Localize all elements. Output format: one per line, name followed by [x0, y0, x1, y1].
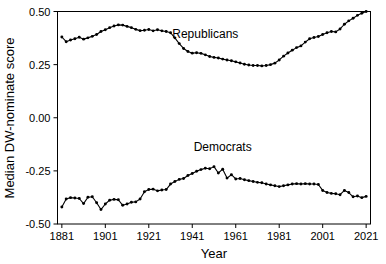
data-point: [160, 29, 163, 32]
data-point: [273, 184, 276, 187]
data-point: [269, 183, 272, 186]
data-point: [204, 167, 207, 170]
y-tick-label: -0.25: [25, 165, 50, 177]
y-tick-label: 0.00: [29, 112, 50, 124]
data-point: [178, 42, 181, 45]
data-point: [256, 64, 259, 67]
y-axis-title: Median DW-nominate score: [2, 38, 17, 199]
data-point: [334, 30, 337, 33]
data-point: [104, 203, 107, 206]
data-point: [239, 177, 242, 180]
data-point: [330, 192, 333, 195]
data-point: [169, 183, 172, 186]
data-point: [343, 189, 346, 192]
x-tick-label: 1901: [93, 230, 117, 242]
data-point: [147, 28, 150, 31]
data-point: [299, 183, 302, 186]
data-point: [208, 55, 211, 58]
data-point: [156, 189, 159, 192]
data-point: [117, 198, 120, 201]
data-point: [195, 170, 198, 173]
data-point: [217, 172, 220, 175]
dw-nominate-chart: 0.500.250.00-0.25-0.50 18811901192119411…: [0, 0, 386, 264]
data-point: [282, 55, 285, 58]
data-point: [200, 168, 203, 171]
x-axis-title: Year: [201, 246, 228, 261]
data-point: [152, 188, 155, 191]
data-point: [165, 188, 168, 191]
data-point: [78, 36, 81, 39]
data-point: [334, 192, 337, 195]
data-point: [308, 37, 311, 40]
data-point: [291, 49, 294, 52]
data-point: [352, 17, 355, 20]
data-point: [356, 195, 359, 198]
data-point: [339, 27, 342, 30]
data-point: [252, 64, 255, 67]
data-point: [60, 36, 63, 39]
data-point: [113, 25, 116, 28]
data-point: [339, 193, 342, 196]
data-point: [82, 38, 85, 41]
data-point: [139, 29, 142, 32]
data-point: [308, 183, 311, 186]
x-tick-label: 1941: [180, 230, 204, 242]
data-point: [108, 26, 111, 29]
data-point: [326, 191, 329, 194]
data-point: [347, 191, 350, 194]
data-point: [73, 197, 76, 200]
data-point: [256, 181, 259, 184]
x-tick-label: 2001: [310, 230, 334, 242]
data-point: [313, 36, 316, 39]
data-point: [304, 182, 307, 185]
data-point: [365, 195, 368, 198]
data-point: [304, 41, 307, 44]
data-point: [108, 199, 111, 202]
data-point: [239, 61, 242, 64]
y-tick-label: 0.25: [29, 59, 50, 71]
data-point: [126, 25, 129, 28]
data-point: [347, 19, 350, 22]
x-tick-label: 1961: [223, 230, 247, 242]
data-point: [130, 26, 133, 29]
data-point: [191, 52, 194, 55]
data-point: [352, 195, 355, 198]
data-point: [321, 33, 324, 36]
data-point: [69, 39, 72, 42]
data-point: [273, 62, 276, 65]
data-point: [182, 47, 185, 50]
data-point: [182, 177, 185, 180]
y-tick-label: -0.50: [25, 218, 50, 230]
data-point: [143, 190, 146, 193]
data-point: [243, 63, 246, 66]
data-point: [221, 58, 224, 61]
data-point: [213, 56, 216, 59]
data-point: [230, 173, 233, 176]
data-point: [299, 44, 302, 47]
data-point: [204, 53, 207, 56]
data-point: [265, 64, 268, 67]
data-point: [260, 181, 263, 184]
data-point: [317, 183, 320, 186]
data-point: [191, 172, 194, 175]
data-point: [208, 167, 211, 170]
data-point: [265, 183, 268, 186]
data-point: [160, 189, 163, 192]
data-point: [356, 14, 359, 17]
data-point: [291, 183, 294, 186]
data-point: [82, 202, 85, 205]
data-point: [86, 196, 89, 199]
data-point: [178, 178, 181, 181]
data-point: [78, 197, 81, 200]
data-point: [91, 195, 94, 198]
data-point: [278, 59, 281, 62]
data-point: [360, 12, 363, 15]
data-point: [143, 29, 146, 32]
data-point: [147, 188, 150, 191]
data-point: [95, 201, 98, 204]
data-point: [217, 57, 220, 60]
data-point: [286, 183, 289, 186]
y-tick-label: 0.50: [29, 6, 50, 18]
data-point: [121, 24, 124, 27]
data-point: [282, 184, 285, 187]
